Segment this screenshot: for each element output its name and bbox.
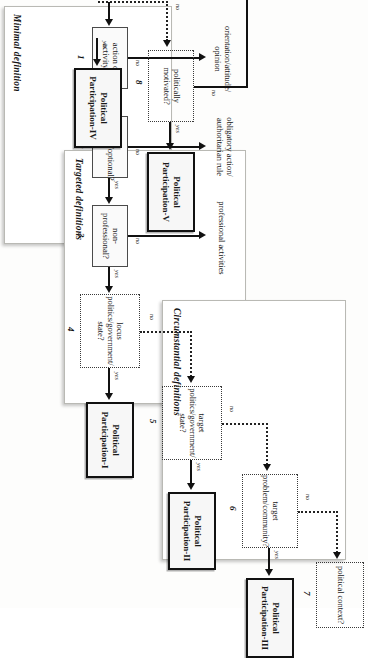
edge-8-pp5-line xyxy=(169,122,171,144)
edge-8-pp5-arrowhead xyxy=(167,143,175,150)
edge-7-no-vline xyxy=(98,1,168,3)
edge-7-pp4-label: yes xyxy=(102,41,109,49)
outcome-pp4-box[interactable]: Political Participation-IV xyxy=(74,68,122,148)
edge-8-no-hline xyxy=(246,0,248,88)
outcome-pp4-label: Political Participation-IV xyxy=(87,76,109,140)
edge-7-pp4-line2 xyxy=(96,38,98,60)
node-8-label: politically motivated? xyxy=(149,51,193,121)
node-8-number: 8 xyxy=(134,80,144,85)
edge-7-no-arrowhead xyxy=(164,40,172,47)
edge-7-pp4-arrowhead xyxy=(94,59,102,66)
outcome-pp5-label: Political Participation-V xyxy=(160,162,182,222)
node-8-box[interactable]: politically motivated? xyxy=(148,50,194,122)
edge-7-no-label: no xyxy=(175,4,182,10)
edge-8-pp5-label: yes xyxy=(175,125,182,133)
edge-8-no-vline xyxy=(194,86,248,88)
edge-7-no-hline xyxy=(166,1,168,41)
edge-8-no-label: no xyxy=(211,90,218,96)
outcome-pp5-box[interactable]: Political Participation-V xyxy=(147,152,195,232)
